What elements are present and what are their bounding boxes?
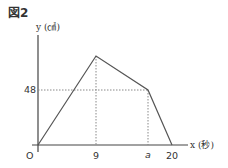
line-chart: y (㎠) x (秒) 48 O 9 a 20: [0, 0, 228, 168]
tick-xa: a: [145, 149, 151, 160]
tick-x20: 20: [166, 150, 178, 161]
data-line: [38, 56, 172, 145]
y-axis-label: y (㎠): [35, 22, 60, 32]
tick-x9: 9: [93, 150, 99, 161]
x-axis-label: x (秒): [190, 139, 214, 150]
tick-y48: 48: [24, 84, 36, 95]
tick-origin: O: [26, 150, 33, 161]
